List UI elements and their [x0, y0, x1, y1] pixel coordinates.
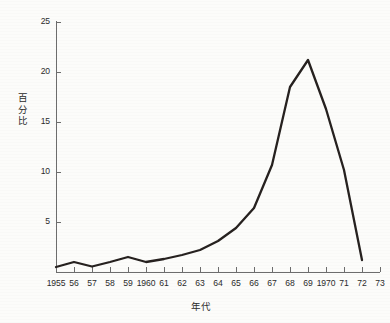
data-series-line: [56, 60, 362, 267]
y-tick-label: 20: [28, 66, 50, 76]
y-axis-title-char: 百: [16, 92, 30, 104]
x-tick-label: 66: [249, 278, 258, 288]
x-tick-label: 73: [375, 278, 384, 288]
chart-tick-marks: [56, 22, 380, 272]
x-tick-label: 71: [339, 278, 348, 288]
x-tick-label: 59: [123, 278, 132, 288]
y-tick-label: 15: [28, 116, 50, 126]
x-tick-label: 68: [285, 278, 294, 288]
x-tick-label: 61: [159, 278, 168, 288]
line-chart: 510152025 195556575859196061626364656667…: [0, 0, 390, 323]
y-tick-label: 5: [28, 216, 50, 226]
y-axis-title-char: 分: [16, 104, 30, 116]
x-tick-label: 62: [177, 278, 186, 288]
x-tick-label: 1955: [47, 278, 66, 288]
x-tick-label: 67: [267, 278, 276, 288]
y-axis-title-char: 比: [16, 115, 30, 127]
x-tick-label: 56: [69, 278, 78, 288]
chart-axes: [56, 21, 380, 272]
y-tick-label: 25: [28, 16, 50, 26]
x-tick-label: 57: [87, 278, 96, 288]
y-tick-label: 10: [28, 166, 50, 176]
x-tick-label: 69: [303, 278, 312, 288]
x-tick-label: 1960: [137, 278, 156, 288]
x-tick-label: 63: [195, 278, 204, 288]
y-axis-title: 百分比: [16, 92, 30, 127]
x-tick-label: 72: [357, 278, 366, 288]
chart-plot-area: [0, 0, 390, 323]
x-tick-label: 64: [213, 278, 222, 288]
x-axis-title: 年代: [0, 299, 390, 313]
x-axis-title-text: 年代: [191, 301, 211, 312]
x-tick-label: 58: [105, 278, 114, 288]
x-tick-label: 65: [231, 278, 240, 288]
x-tick-label: 1970: [317, 278, 336, 288]
